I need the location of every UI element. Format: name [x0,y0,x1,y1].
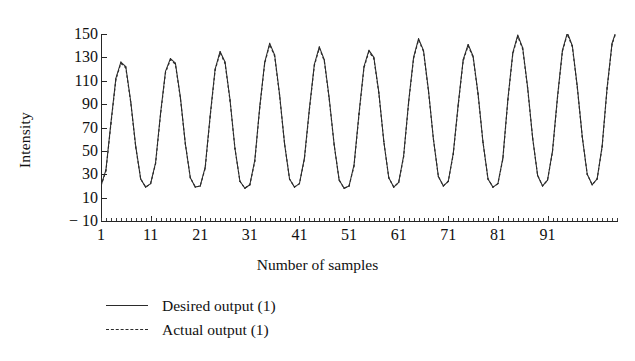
x-minor-tick-mark [309,218,310,221]
x-minor-tick-mark [433,218,434,221]
x-minor-tick-mark [270,218,271,221]
series-point [418,39,419,40]
series-point [398,182,399,183]
series-point [230,100,231,101]
y-tick-mark [102,198,107,199]
x-minor-tick-mark [121,218,122,221]
series-point [428,91,429,92]
y-tick-mark [102,151,107,152]
x-tick-label: 71 [440,226,456,244]
series-point [180,98,181,99]
x-tick-label: 51 [341,226,357,244]
series-point [175,64,176,65]
y-tick-mark [102,128,107,129]
series-point [239,181,240,182]
x-minor-tick-mark [156,218,157,221]
legend-item: Actual output (1) [104,318,404,342]
x-tick-label: 61 [391,226,407,244]
series-point [319,48,320,49]
x-minor-tick-mark [369,218,370,221]
x-minor-tick-mark [399,218,400,221]
series-point [607,88,608,89]
x-minor-tick-mark [488,218,489,221]
series-point [497,183,498,184]
x-minor-tick-mark [577,218,578,221]
series-point [388,177,389,178]
series-point [155,163,156,164]
x-minor-tick-mark [562,218,563,221]
series-point [120,63,121,64]
x-minor-tick-mark [424,218,425,221]
series-point [403,156,404,157]
x-minor-tick-mark [106,218,107,221]
series-point [105,170,106,171]
series-point [522,49,523,50]
series-point [363,67,364,68]
x-minor-tick-mark [582,218,583,221]
x-minor-tick-mark [394,218,395,221]
series-point [254,161,255,162]
x-minor-tick-mark [503,218,504,221]
series-point [423,51,424,52]
series-point [195,187,196,188]
x-axis-title: Number of samples [0,256,635,274]
series-point [557,98,558,99]
x-minor-tick-mark [458,218,459,221]
x-minor-tick-mark [572,218,573,221]
x-minor-tick-mark [180,218,181,221]
y-tick-label: 10 [44,190,98,206]
x-minor-tick-mark [448,218,449,221]
y-tick-mark [102,57,107,58]
x-minor-tick-mark [195,218,196,221]
y-tick-label: 90 [44,96,98,112]
x-minor-tick-mark [513,218,514,221]
legend-solid-line-icon [104,300,150,312]
series-point [110,123,111,124]
series-point [205,167,206,168]
series-point [507,100,508,101]
series-point [577,86,578,87]
legend-label: Desired output (1) [162,297,276,315]
series-point [165,72,166,73]
series-point [274,56,275,57]
x-minor-tick-mark [607,218,608,221]
x-minor-tick-mark [533,218,534,221]
series-point [428,90,429,91]
x-minor-tick-mark [354,218,355,221]
x-minor-tick-mark [409,218,410,221]
series-point [334,145,335,146]
x-minor-tick-mark [602,218,603,221]
x-minor-tick-mark [548,218,549,221]
series-point [309,109,310,110]
series-point [289,178,290,179]
series-point [150,183,151,184]
series-point [329,99,330,100]
x-tick-label: 11 [143,226,158,244]
legend-dashed-line-icon [104,324,150,336]
x-minor-tick-mark [290,218,291,221]
series-point [378,93,379,94]
series-point [433,139,434,140]
x-minor-tick-mark [101,218,102,221]
series-point [259,107,260,108]
series-point [567,34,568,35]
series-point [597,178,598,179]
series-point [145,187,146,188]
y-tick-mark [102,174,107,175]
series-point [299,183,300,184]
x-axis-tick-labels: 1112131415161718191 [0,226,635,248]
series-point [517,35,518,36]
x-minor-tick-mark [265,218,266,221]
series-point [220,51,221,52]
series-point [502,159,503,160]
y-tick-mark [102,81,107,82]
series-point [210,116,211,117]
x-minor-tick-mark [146,218,147,221]
series-point [443,185,444,186]
x-minor-tick-mark [543,218,544,221]
series-point [393,187,394,188]
series-point [552,152,553,153]
x-minor-tick-mark [161,218,162,221]
series-point [160,113,161,114]
x-minor-tick-mark [339,218,340,221]
